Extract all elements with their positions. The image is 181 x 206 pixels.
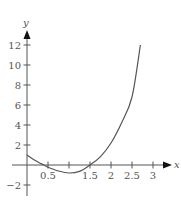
y-tick-label: 12 <box>8 40 21 51</box>
y-tick-label: −2 <box>6 180 21 191</box>
y-tick-label: 10 <box>8 60 21 71</box>
y-tick-label: 4 <box>15 120 21 131</box>
x-axis-label: x <box>174 159 180 170</box>
x-tick-label: 2.5 <box>124 170 140 181</box>
y-tick-label: 6 <box>15 100 21 111</box>
y-tick-label: 8 <box>15 80 21 91</box>
y-axis-label: y <box>22 17 29 28</box>
chart: x 0.51.522.53 y −224681012 <box>0 0 181 206</box>
y-axis-arrow-icon <box>24 30 31 39</box>
x-tick-label: 1.5 <box>82 170 98 181</box>
x-tick-label: 3 <box>150 170 156 181</box>
data-curve <box>27 45 140 173</box>
x-tick-label: 0.5 <box>40 170 56 181</box>
x-axis-arrow-icon <box>163 162 172 169</box>
y-tick-label: 2 <box>15 140 21 151</box>
x-tick-label: 2 <box>108 170 114 181</box>
y-axis: y −224681012 <box>6 17 30 196</box>
